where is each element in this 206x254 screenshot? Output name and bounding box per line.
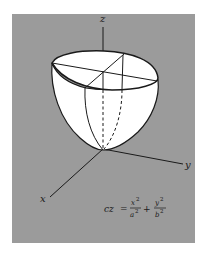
equation-equals: = <box>120 204 128 214</box>
term2-denominator-exp: 2 <box>160 208 164 214</box>
equation-lhs: cz <box>104 204 114 214</box>
term2-numerator-exp: 2 <box>160 196 164 202</box>
term1-denominator: a <box>130 211 134 219</box>
equation-plus: + <box>143 204 151 214</box>
z-axis-label: z <box>99 13 106 24</box>
term1-numerator-exp: 2 <box>136 196 140 202</box>
paraboloid-diagram: z x y cz = x 2 a 2 + y 2 b 2 <box>0 0 206 254</box>
term1-denominator-exp: 2 <box>135 208 139 214</box>
x-axis-label: x <box>40 193 46 204</box>
term1-numerator: x <box>131 199 135 207</box>
y-axis-label: y <box>184 159 191 170</box>
